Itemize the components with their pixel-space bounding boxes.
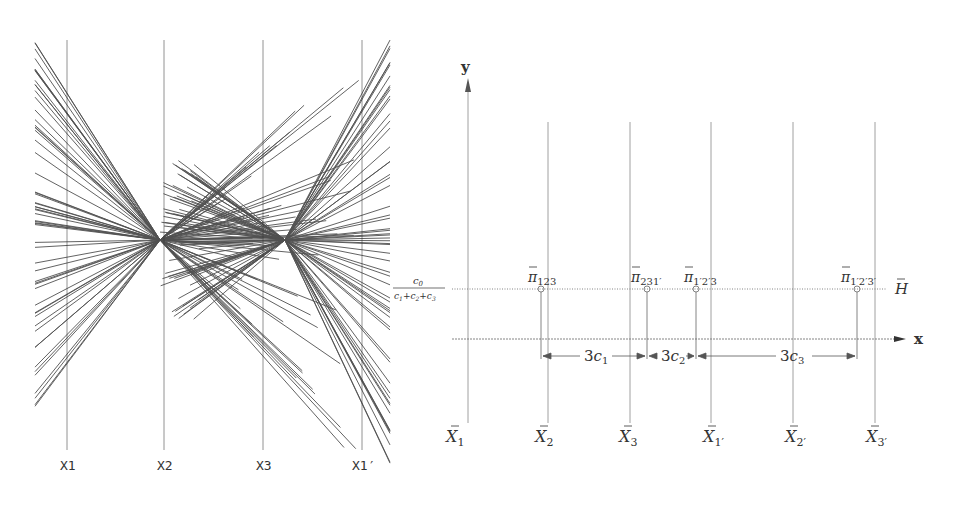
spacing-label-3c1: 3c1 bbox=[584, 347, 608, 366]
svg-text:X3′: X3′ bbox=[864, 427, 887, 449]
y-axis-label: y bbox=[460, 58, 471, 76]
right-axis-labels: X1 X2 X3 X1′ X2′ X3′ bbox=[444, 426, 887, 449]
axis-label-xbar2: X2 bbox=[533, 426, 553, 449]
point-labels: π123 π231′ π1′2′3 π1′2′3′ bbox=[527, 267, 877, 287]
polyline-bundle bbox=[35, 40, 390, 463]
spacing-label-3c3: 3c3 bbox=[780, 347, 804, 366]
svg-text:X1′: X1′ bbox=[701, 427, 724, 449]
right-axes bbox=[468, 85, 875, 423]
svg-text:X2: X2 bbox=[533, 427, 553, 449]
x-axis-arrow-icon bbox=[894, 336, 906, 342]
h-label: H bbox=[894, 280, 909, 298]
axis-label-xbar1: X1 bbox=[444, 426, 464, 449]
svg-text:c0: c0 bbox=[413, 275, 424, 288]
axis-label-xbar3prime: X3′ bbox=[864, 426, 887, 449]
spacing-label-3c2: 3c2 bbox=[661, 347, 685, 366]
svg-text:π1′2′3′: π1′2′3′ bbox=[840, 269, 877, 287]
axis-label-xbar2prime: X2′ bbox=[783, 426, 806, 449]
fraction-label: c0 c1+c2+c3 bbox=[393, 275, 445, 302]
y-axis-arrow-icon bbox=[465, 78, 471, 92]
axis-label-x2: X2 bbox=[157, 458, 173, 473]
parallel-coordinates-figure: X1 X2 X3 X1′ c0 c1+c2+c3 y x H π123 bbox=[0, 0, 953, 508]
svg-text:π1′2′3: π1′2′3 bbox=[683, 269, 717, 287]
svg-text:X3: X3 bbox=[617, 427, 637, 449]
svg-text:c1+c2+c3: c1+c2+c3 bbox=[394, 291, 436, 302]
axis-label-x1prime: X1′ bbox=[352, 458, 375, 473]
axis-label-x3: X3 bbox=[256, 458, 272, 473]
axis-label-x1: X1 bbox=[60, 458, 76, 473]
x-axis-label: x bbox=[914, 330, 924, 348]
svg-text:X1: X1 bbox=[444, 427, 464, 449]
svg-text:π123: π123 bbox=[527, 269, 556, 287]
axis-label-xbar1prime: X1′ bbox=[701, 426, 724, 449]
svg-text:X2′: X2′ bbox=[783, 427, 806, 449]
axis-label-xbar3: X3 bbox=[617, 426, 637, 449]
svg-text:π231′: π231′ bbox=[630, 269, 662, 287]
